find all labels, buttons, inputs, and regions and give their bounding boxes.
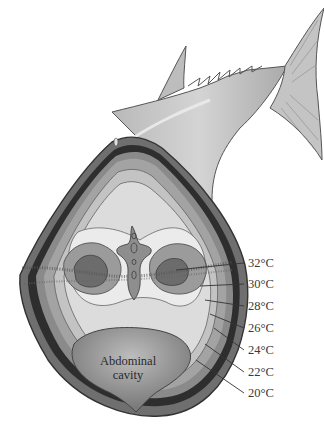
cavity-label-line1: Abdominal [88, 354, 168, 368]
isotherm-label-30: 30°C [248, 277, 274, 292]
isotherm-label-26: 26°C [248, 321, 274, 336]
isotherm-label-28: 28°C [248, 299, 274, 314]
cavity-label-line2: cavity [88, 368, 168, 382]
isotherm-label-24: 24°C [248, 343, 274, 358]
dorsal-fin [158, 46, 186, 100]
isotherm-label-22: 22°C [248, 365, 274, 380]
isotherm-label-20: 20°C [248, 386, 274, 401]
isotherm-label-32: 32°C [248, 256, 274, 271]
abdominal-cavity-label: Abdominal cavity [88, 354, 168, 382]
